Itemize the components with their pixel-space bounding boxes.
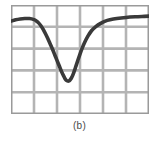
figure-panel: (b) — [0, 0, 159, 141]
plot-svg — [11, 5, 149, 114]
plot-area — [11, 5, 149, 114]
figure-caption: (b) — [0, 119, 159, 133]
